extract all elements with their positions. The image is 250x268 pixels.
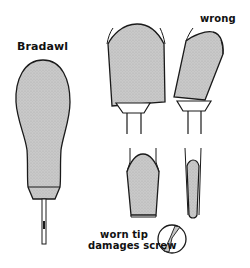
tip-front-blade xyxy=(127,154,159,215)
wrong-fit-blade xyxy=(174,32,223,100)
correct-fit-figure xyxy=(107,24,165,134)
wrong-label: wrong xyxy=(200,13,236,24)
bradawl-handle xyxy=(16,60,70,199)
tip-front-view-figure xyxy=(127,148,159,217)
bradawl-label: Bradawl xyxy=(17,41,68,52)
wrong-fit-screw-head xyxy=(177,101,211,111)
wrong-fit-figure xyxy=(174,28,223,134)
worn-tip-caption-line2: damages screw xyxy=(88,240,160,251)
tip-side-blade xyxy=(187,160,199,218)
correct-fit-screw-head xyxy=(116,103,150,113)
correct-fit-blade xyxy=(108,24,165,106)
bradawl-blade-tip xyxy=(43,221,45,229)
worn-tip-caption: worn tip damages screw xyxy=(88,229,160,251)
bradawl-figure xyxy=(16,60,70,244)
tip-side-view-figure xyxy=(185,148,201,218)
worn-tip-caption-line1: worn tip xyxy=(88,229,160,240)
